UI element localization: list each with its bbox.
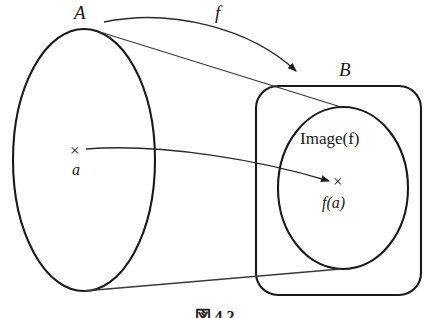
function-mapping-figure: A f B Image(f) × a × f(a) 図 4.2	[0, 0, 429, 318]
cone-line-bottom	[84, 269, 341, 291]
diagram-canvas	[0, 0, 429, 318]
function-label: f	[215, 3, 220, 22]
element-fa-label: f(a)	[322, 195, 345, 211]
element-a-label: a	[72, 162, 80, 178]
element-a-marker: ×	[70, 142, 80, 159]
figure-caption: 図 4.2	[0, 303, 429, 318]
image-of-f-label: Image(f)	[300, 130, 359, 147]
set-a-label: A	[74, 3, 86, 22]
set-a-ellipse	[13, 29, 155, 291]
set-b-label: B	[339, 60, 351, 79]
element-fa-marker: ×	[333, 173, 343, 190]
element-map-arrow	[86, 148, 329, 181]
